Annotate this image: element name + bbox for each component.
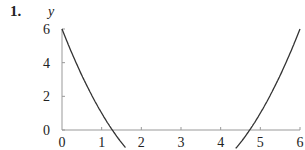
y-axis-label: y (46, 4, 55, 19)
x-tick-label: 2 (138, 135, 145, 150)
y-tick-label: 2 (43, 89, 50, 104)
parabola-chart: 0123456 0246 y (0, 0, 305, 150)
x-tick-label: 1 (98, 135, 105, 150)
x-tick-label: 5 (257, 135, 264, 150)
x-tick-label: 4 (217, 135, 224, 150)
x-tick-label: 0 (59, 135, 66, 150)
x-tick-label: 6 (297, 135, 304, 150)
y-tick-label: 0 (43, 123, 50, 138)
y-tick-label: 6 (43, 22, 50, 37)
y-tick-label: 4 (43, 56, 50, 71)
x-tick-label: 3 (178, 135, 185, 150)
